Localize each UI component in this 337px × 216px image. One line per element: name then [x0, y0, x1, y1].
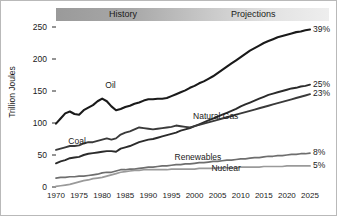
series-label-coal: Coal	[68, 136, 85, 146]
x-tick-label: 1980	[90, 191, 114, 200]
x-tick-label: 2000	[183, 191, 207, 200]
series-line-oil	[56, 30, 310, 124]
series-label-renewables: Renewables	[175, 152, 222, 162]
x-tick-label: 1995	[159, 191, 183, 200]
end-label-natural-gas: 25%	[313, 79, 330, 89]
y-tick-label: 50	[21, 150, 47, 160]
x-tick-label: 1985	[113, 191, 137, 200]
x-tick-label: 2010	[229, 191, 253, 200]
x-tick-label: 1975	[67, 191, 91, 200]
y-tick-label: 100	[21, 118, 47, 128]
end-label-renewables: 8%	[313, 147, 325, 157]
series-label-natural-gas: Natural Gas	[193, 111, 238, 121]
x-tick-label: 2020	[275, 191, 299, 200]
x-tick-label: 1970	[44, 191, 68, 200]
y-tick-label: 250	[21, 22, 47, 32]
x-tick-label: 2005	[206, 191, 230, 200]
series-line-coal	[56, 94, 310, 150]
series-line-nuclear	[56, 166, 310, 186]
end-label-oil: 39%	[313, 24, 330, 34]
y-tick-label: 150	[21, 86, 47, 96]
end-label-coal: 23%	[313, 88, 330, 98]
series-label-oil: Oil	[105, 80, 115, 90]
chart-frame: History Projections Trillion Joules 0501…	[0, 0, 337, 216]
x-tick-label: 2015	[252, 191, 276, 200]
series-label-nuclear: Nuclear	[211, 163, 240, 173]
y-tick-label: 200	[21, 54, 47, 64]
line-chart-canvas	[1, 1, 337, 216]
end-label-nuclear: 5%	[313, 160, 325, 170]
x-tick-label: 2025	[298, 191, 322, 200]
x-tick-label: 1990	[136, 191, 160, 200]
